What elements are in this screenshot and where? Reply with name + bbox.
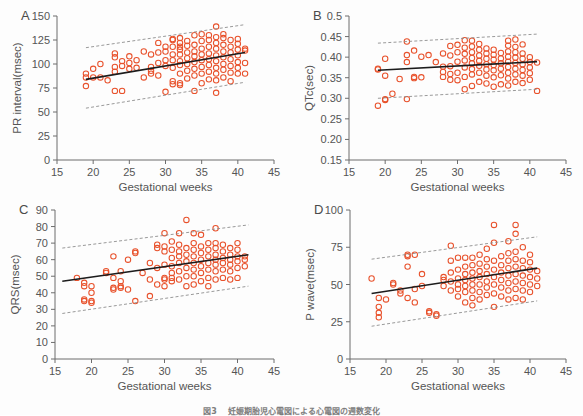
data-point xyxy=(176,242,181,247)
data-point xyxy=(127,54,132,59)
lower-prediction-band xyxy=(372,301,538,326)
panel-letter-c: C xyxy=(19,202,28,217)
data-point xyxy=(513,79,518,84)
data-point xyxy=(505,70,510,75)
data-point xyxy=(228,44,233,49)
y-tick-label: 0 xyxy=(42,353,48,365)
data-point xyxy=(235,275,240,280)
data-point xyxy=(470,282,475,287)
y-tick-label: 0.15 xyxy=(321,154,342,166)
data-point xyxy=(191,267,196,272)
plot-area-c: C010203040506070809015202530354045Gestat… xyxy=(0,196,291,393)
x-tick-label: 35 xyxy=(488,166,500,178)
data-point xyxy=(220,242,225,247)
data-point xyxy=(499,253,504,258)
data-point xyxy=(477,252,482,257)
data-point xyxy=(242,60,247,65)
data-point xyxy=(448,243,453,248)
x-tick-label: 35 xyxy=(196,166,208,178)
data-point xyxy=(433,59,438,64)
data-point xyxy=(192,42,197,47)
x-tick-label: 45 xyxy=(268,166,280,178)
x-tick-label: 40 xyxy=(231,365,243,377)
x-tick-label: 20 xyxy=(380,365,392,377)
data-point xyxy=(89,283,94,288)
data-point xyxy=(125,287,130,292)
data-point xyxy=(484,256,489,261)
data-point xyxy=(235,240,240,245)
data-point xyxy=(242,264,247,269)
y-tick-label: 75 xyxy=(331,241,343,253)
y-tick-label: 0.20 xyxy=(321,133,342,145)
plot-area-b: B0.150.200.250.300.350.400.450.515202530… xyxy=(292,0,583,197)
data-point xyxy=(448,258,453,263)
y-tick-label: 125 xyxy=(32,34,50,46)
data-point xyxy=(477,289,482,294)
y-tick-label: 0 xyxy=(44,154,50,166)
data-point xyxy=(170,65,175,70)
data-point xyxy=(169,247,174,252)
y-tick-label: 0 xyxy=(337,353,343,365)
data-point xyxy=(484,67,489,72)
data-point xyxy=(163,89,168,94)
data-point xyxy=(213,269,218,274)
data-point xyxy=(112,55,117,60)
data-point xyxy=(455,50,460,55)
data-point xyxy=(198,232,203,237)
data-point xyxy=(147,260,152,265)
data-point xyxy=(140,270,145,275)
data-point xyxy=(199,52,204,57)
x-tick-label: 45 xyxy=(560,166,572,178)
data-point xyxy=(491,68,496,73)
data-point xyxy=(505,83,510,88)
y-tick-label: 0.5 xyxy=(327,10,342,22)
data-point xyxy=(198,264,203,269)
data-point xyxy=(397,76,402,81)
data-point xyxy=(491,258,496,263)
data-point xyxy=(412,252,417,257)
data-point xyxy=(221,75,226,80)
data-point xyxy=(170,57,175,62)
data-point xyxy=(228,79,233,84)
y-tick-label: 100 xyxy=(32,58,50,70)
data-point xyxy=(477,70,482,75)
data-point xyxy=(191,282,196,287)
data-point xyxy=(220,267,225,272)
data-point xyxy=(470,288,475,293)
x-tick-label: 45 xyxy=(560,365,572,377)
data-point xyxy=(169,255,174,260)
y-tick-label: 0.30 xyxy=(321,92,342,104)
y-tick-label: 50 xyxy=(38,106,50,118)
data-point xyxy=(470,255,475,260)
data-point xyxy=(455,255,460,260)
data-point xyxy=(213,46,218,51)
data-point xyxy=(455,267,460,272)
data-point xyxy=(469,66,474,71)
data-point xyxy=(448,288,453,293)
x-tick-label: 40 xyxy=(524,166,536,178)
data-point xyxy=(111,275,116,280)
data-point xyxy=(505,49,510,54)
data-point xyxy=(206,69,211,74)
data-point xyxy=(375,103,380,108)
data-point xyxy=(191,247,196,252)
data-point xyxy=(419,75,424,80)
data-point xyxy=(206,275,211,280)
data-point xyxy=(499,285,504,290)
data-point xyxy=(134,57,139,62)
data-point xyxy=(169,239,174,244)
data-point xyxy=(520,42,525,47)
data-point xyxy=(147,293,152,298)
x-tick-label: 15 xyxy=(49,365,61,377)
data-point xyxy=(228,269,233,274)
data-point xyxy=(390,91,395,96)
y-tick-label: 0.40 xyxy=(321,51,342,63)
data-point xyxy=(177,71,182,76)
data-point xyxy=(220,275,225,280)
data-point xyxy=(419,54,424,59)
x-tick-label: 25 xyxy=(415,166,427,178)
y-tick-label: 0.35 xyxy=(321,72,342,84)
x-axis-title: Gestational weeks xyxy=(411,181,505,193)
data-point xyxy=(213,226,218,231)
data-point xyxy=(469,38,474,43)
